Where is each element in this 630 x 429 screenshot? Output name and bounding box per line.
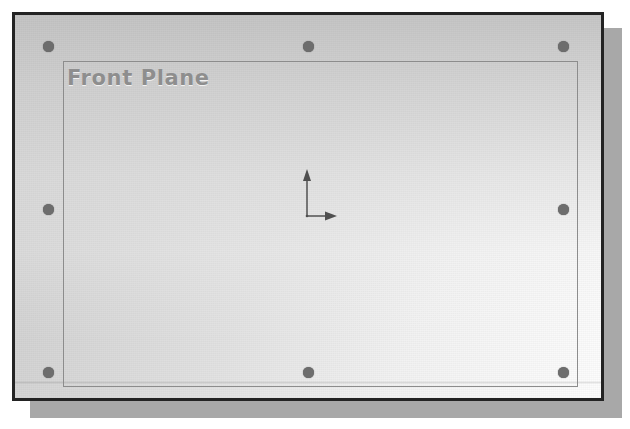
handle-bottom-left[interactable] — [43, 367, 54, 378]
handle-middle-right[interactable] — [558, 204, 569, 215]
handle-bottom-right[interactable] — [558, 367, 569, 378]
y-axis-arrow-icon — [303, 169, 311, 181]
origin-point-icon — [306, 215, 309, 218]
x-axis-arrow-icon — [325, 211, 337, 220]
handle-top-center[interactable] — [303, 41, 314, 52]
origin-coordinate-triad[interactable] — [296, 166, 342, 222]
handle-top-left[interactable] — [43, 41, 54, 52]
cad-graphics-viewport[interactable]: Front Plane — [12, 12, 604, 401]
handle-bottom-center[interactable] — [303, 367, 314, 378]
handle-top-right[interactable] — [558, 41, 569, 52]
handle-middle-left[interactable] — [43, 204, 54, 215]
screenshot-root: Front Plane — [0, 0, 630, 429]
front-plane-label: Front Plane — [67, 66, 210, 90]
